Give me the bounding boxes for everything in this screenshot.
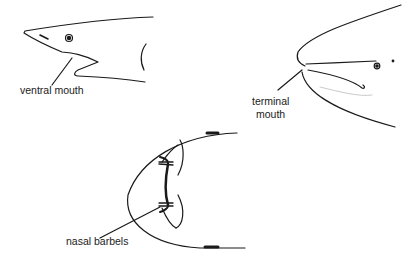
diagram-canvas	[0, 0, 417, 266]
shark-head-ventral-mouth	[24, 17, 153, 85]
ventral-view-nasal-barbels	[100, 133, 245, 248]
terminal-mouth-label-line1: terminal	[252, 95, 289, 108]
fish-head-terminal-mouth	[278, 5, 401, 127]
nasal-barbels-label: nasal barbels	[66, 235, 128, 248]
terminal-mouth-label-line2: mouth	[256, 108, 285, 121]
ventral-mouth-label: ventral mouth	[20, 84, 84, 97]
